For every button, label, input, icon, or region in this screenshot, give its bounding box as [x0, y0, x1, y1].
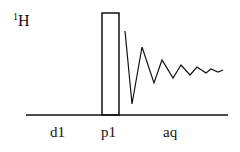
pulse-p1 — [102, 13, 119, 115]
pulse-sequence-diagram — [0, 0, 240, 152]
fid-signal — [125, 31, 223, 104]
period-label-aq: aq — [163, 124, 177, 141]
period-label-p1: p1 — [101, 124, 116, 141]
period-label-d1: d1 — [50, 124, 65, 141]
